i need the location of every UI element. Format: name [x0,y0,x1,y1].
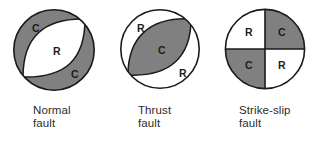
quadrant-label-lower-left: C [245,59,253,71]
caption-line-1: Thrust [138,104,171,117]
quadrant-label-center: R [53,45,61,57]
fault-mechanism-figure: C R C Normal fault R C R [0,0,319,142]
caption-line-1: Strike-slip [239,104,291,117]
quadrant-label-center: C [158,44,166,56]
quadrant-label-lower-right: R [179,67,187,79]
beachball-strike-slip-fault: R C C R [224,8,306,90]
caption-line-2: fault [138,117,171,130]
caption-strike-slip-fault: Strike-slip fault [239,104,291,129]
caption-normal-fault: Normal fault [33,104,71,129]
quadrant-label-upper-left: C [32,22,40,34]
beachball-normal-fault: C R C [13,8,97,94]
quadrant-label-lower-right: C [71,68,79,80]
diagram-normal-fault: C R C [13,8,97,94]
quadrant-label-lower-right: R [278,59,286,71]
caption-line-1: Normal [33,104,71,117]
diagram-thrust-fault: R C R [120,8,202,92]
diagram-strike-slip-fault: R C C R [224,8,306,90]
beachball-thrust-fault: R C R [120,8,202,92]
quadrant-label-upper-right: C [278,26,286,38]
quadrant-label-upper-left: R [245,26,253,38]
caption-line-2: fault [239,117,291,130]
quadrant-label-upper-left: R [137,22,145,34]
caption-line-2: fault [33,117,71,130]
caption-thrust-fault: Thrust fault [138,104,171,129]
